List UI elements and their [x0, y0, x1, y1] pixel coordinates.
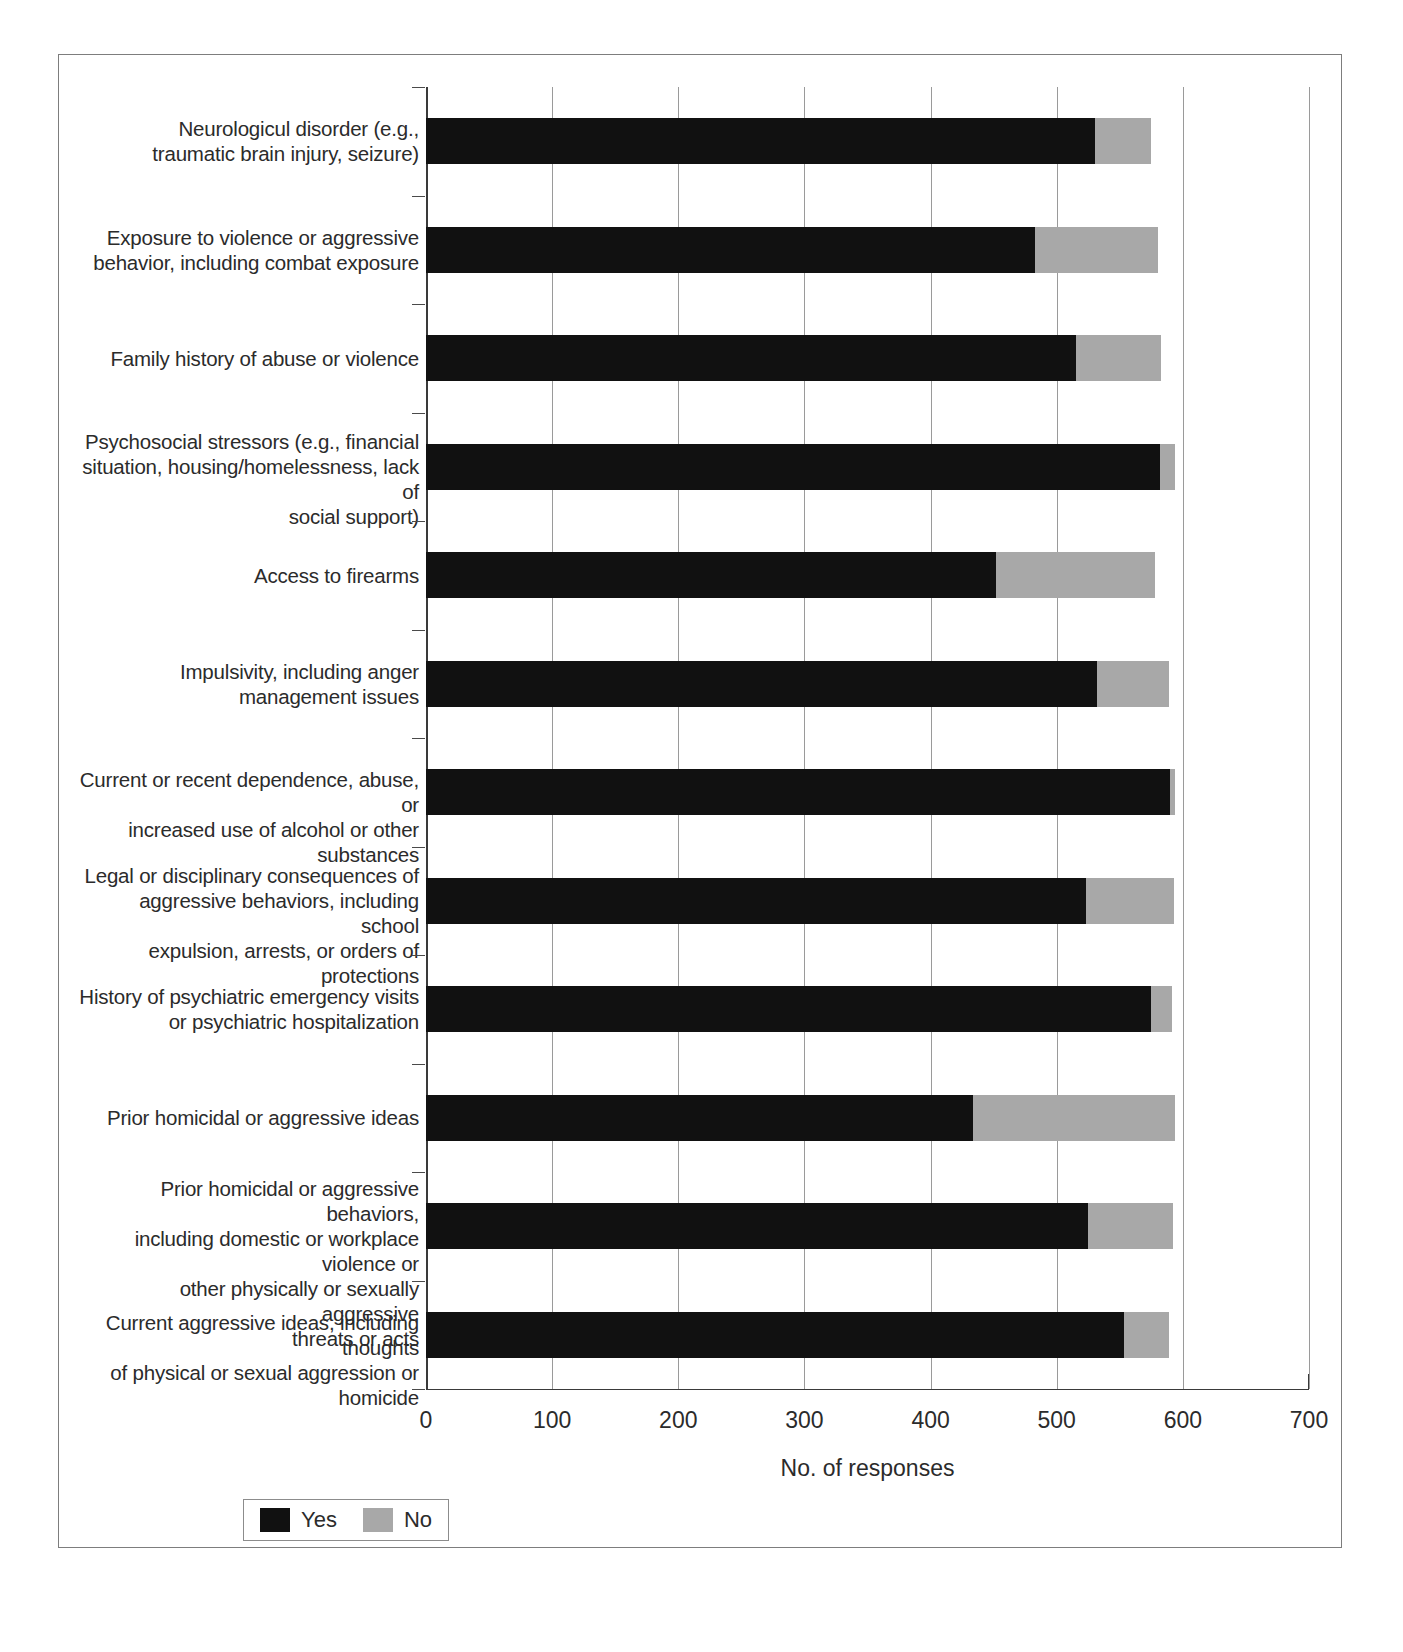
category-label-line: of physical or sexual aggression or homi… — [79, 1360, 419, 1410]
category-label-line: Legal or disciplinary consequences of — [79, 863, 419, 888]
bar-segment-no — [1170, 769, 1175, 815]
gridline-700 — [1309, 87, 1310, 1389]
x-axis-tick-label: 300 — [785, 1407, 823, 1434]
category-label-line: Impulsivity, including anger — [79, 659, 419, 684]
bar-row — [426, 87, 1309, 196]
figure-frame: Neurologicul disorder (e.g.,traumatic br… — [58, 54, 1342, 1548]
category-label-line: or psychiatric hospitalization — [79, 1009, 419, 1034]
category-label-line: Current aggressive ideas, including thou… — [79, 1310, 419, 1360]
category-label: Access to firearms — [79, 563, 419, 588]
stacked-bar — [426, 661, 1169, 707]
legend-label-no: No — [404, 1507, 432, 1533]
y-axis-tick — [412, 413, 425, 414]
bar-row — [426, 1172, 1309, 1281]
stacked-bar — [426, 227, 1158, 273]
category-label-line: expulsion, arrests, or orders of protect… — [79, 938, 419, 988]
bar-row — [426, 738, 1309, 847]
x-axis-title: No. of responses — [426, 1455, 1309, 1482]
category-label-line: Current or recent dependence, abuse, or — [79, 767, 419, 817]
category-label-line: including domestic or workplace violence… — [79, 1226, 419, 1276]
figure-page: Neurologicul disorder (e.g.,traumatic br… — [0, 0, 1403, 1652]
category-label: History of psychiatric emergency visitso… — [79, 984, 419, 1034]
bar-row — [426, 847, 1309, 956]
category-label-line: Psychosocial stressors (e.g., financial — [79, 429, 419, 454]
bar-segment-no — [1088, 1203, 1173, 1249]
legend-label-yes: Yes — [301, 1507, 337, 1533]
stacked-bar-chart: Neurologicul disorder (e.g.,traumatic br… — [59, 55, 1341, 1547]
stacked-bar — [426, 878, 1174, 924]
bar-segment-no — [1095, 118, 1152, 164]
bar-segment-no — [973, 1095, 1175, 1141]
category-label: Current aggressive ideas, including thou… — [79, 1310, 419, 1410]
category-label-line: increased use of alcohol or other substa… — [79, 817, 419, 867]
category-label: Neurologicul disorder (e.g.,traumatic br… — [79, 116, 419, 166]
y-axis-tick — [412, 630, 425, 631]
x-axis-tick-label: 0 — [420, 1407, 433, 1434]
y-axis-tick — [412, 521, 425, 522]
x-axis-line — [426, 1389, 1309, 1391]
plot-area — [426, 87, 1309, 1389]
y-axis-tick — [412, 304, 425, 305]
y-axis-tick — [412, 1172, 425, 1173]
x-axis-tick-label: 200 — [659, 1407, 697, 1434]
category-label-line: History of psychiatric emergency visits — [79, 984, 419, 1009]
bar-row — [426, 413, 1309, 522]
bar-segment-yes — [426, 1095, 973, 1141]
category-label-line: Prior homicidal or aggressive behaviors, — [79, 1176, 419, 1226]
stacked-bar — [426, 1312, 1169, 1358]
x-axis-tick-label: 400 — [911, 1407, 949, 1434]
category-label-line: aggressive behaviors, including school — [79, 888, 419, 938]
bar-row — [426, 630, 1309, 739]
bar-segment-no — [1086, 878, 1174, 924]
category-label: Current or recent dependence, abuse, ori… — [79, 767, 419, 867]
y-axis-tick — [412, 955, 425, 956]
bar-segment-yes — [426, 444, 1160, 490]
bar-row — [426, 1064, 1309, 1173]
stacked-bar — [426, 552, 1155, 598]
y-axis-tick — [412, 87, 425, 88]
bar-segment-no — [1097, 661, 1169, 707]
category-label: Psychosocial stressors (e.g., financials… — [79, 429, 419, 529]
category-label-line: Neurologicul disorder (e.g., — [79, 116, 419, 141]
category-label-line: social support) — [79, 504, 419, 529]
category-label-line: behavior, including combat exposure — [79, 250, 419, 275]
bar-segment-no — [996, 552, 1155, 598]
legend-swatch-no — [363, 1508, 393, 1532]
stacked-bar — [426, 986, 1172, 1032]
bar-segment-no — [1035, 227, 1157, 273]
legend-swatch-yes — [260, 1508, 290, 1532]
legend-item-yes: Yes — [260, 1507, 337, 1533]
bar-segment-yes — [426, 227, 1035, 273]
bar-row — [426, 955, 1309, 1064]
category-label: Prior homicidal or aggressive ideas — [79, 1105, 419, 1130]
y-axis-tick — [412, 1281, 425, 1282]
bar-segment-yes — [426, 878, 1086, 924]
y-axis-tick — [412, 738, 425, 739]
y-axis-tick — [412, 1389, 425, 1390]
category-label: Exposure to violence or aggressivebehavi… — [79, 225, 419, 275]
bar-segment-no — [1076, 335, 1162, 381]
stacked-bar — [426, 769, 1175, 815]
x-axis-tick-label: 500 — [1038, 1407, 1076, 1434]
x-axis-tick-label: 600 — [1164, 1407, 1202, 1434]
legend-item-no: No — [363, 1507, 432, 1533]
page-running-text — [0, 0, 1403, 40]
stacked-bar — [426, 335, 1161, 381]
bar-row — [426, 521, 1309, 630]
x-axis-right-cap — [1308, 1374, 1310, 1390]
category-label-line: management issues — [79, 684, 419, 709]
category-label-column: Neurologicul disorder (e.g.,traumatic br… — [69, 87, 419, 1389]
bar-segment-yes — [426, 118, 1095, 164]
chart-legend: Yes No — [243, 1499, 449, 1541]
category-label-line: situation, housing/homelessness, lack of — [79, 454, 419, 504]
bar-rows — [426, 87, 1309, 1389]
bar-row — [426, 1281, 1309, 1390]
bar-segment-yes — [426, 1203, 1088, 1249]
category-label: Impulsivity, including angermanagement i… — [79, 659, 419, 709]
bar-segment-yes — [426, 335, 1076, 381]
stacked-bar — [426, 1095, 1175, 1141]
category-label-line: Prior homicidal or aggressive ideas — [79, 1105, 419, 1130]
y-axis-tick — [412, 847, 425, 848]
bar-row — [426, 304, 1309, 413]
category-label-line: Exposure to violence or aggressive — [79, 225, 419, 250]
